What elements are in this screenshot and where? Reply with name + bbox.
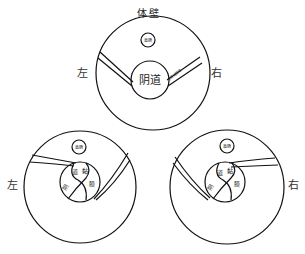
br-char-3: 黏 <box>227 167 233 175</box>
bl-left-ligament-2 <box>30 162 74 166</box>
diagram-canvas: 直肠 阴道 子宫阔韧带 直肠 阴 道 黏 膜 直肠 阴 道 黏 膜 <box>0 0 305 254</box>
top-body-wall-circle <box>96 16 210 130</box>
top-vagina-label: 阴道 <box>139 73 161 87</box>
br-left-ligament <box>175 157 210 198</box>
bl-left-ligament <box>32 155 76 163</box>
top-left-label: 左 <box>77 68 88 79</box>
br-right-ligament <box>229 158 275 163</box>
br-left-ligament-2 <box>173 163 208 200</box>
bl-char-4: 膜 <box>89 180 95 188</box>
bottom-right-side-label: 右 <box>288 180 299 191</box>
top-left-ligament <box>100 52 133 82</box>
bottom-left-side-label: 左 <box>7 180 18 191</box>
bl-char-3: 黏 <box>82 167 88 175</box>
bl-right-ligament-2 <box>96 160 130 200</box>
br-rectum-label: 直肠 <box>223 143 231 149</box>
bl-rectum-label: 直肠 <box>75 144 83 150</box>
top-right-label: 右 <box>211 68 222 79</box>
br-right-ligament-2 <box>231 165 278 167</box>
top-left-ligament-2 <box>98 58 132 86</box>
br-char-2: 道 <box>217 169 223 177</box>
body-wall-title: 体壁 <box>137 5 161 20</box>
top-ligament-label: 子宫阔韧带 <box>167 68 183 82</box>
br-char-4: 膜 <box>234 180 240 188</box>
bl-char-2: 道 <box>72 168 78 176</box>
top-rectum-label: 直肠 <box>144 37 152 43</box>
